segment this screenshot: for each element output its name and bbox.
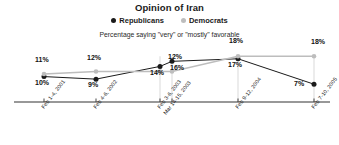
data-point-republicans-5 <box>312 82 317 87</box>
data-point-democrats-0 <box>42 72 47 77</box>
data-point-democrats-1 <box>94 69 99 74</box>
data-point-republicans-1 <box>94 77 99 82</box>
chart-plot-area <box>0 0 339 145</box>
data-point-republicans-2 <box>158 64 163 69</box>
data-point-democrats-4 <box>236 54 241 59</box>
data-point-democrats-3 <box>170 69 175 74</box>
data-point-democrats-5 <box>312 54 317 59</box>
data-point-democrats-2 <box>158 69 163 74</box>
data-point-republicans-3 <box>170 59 175 64</box>
chart-container: Opinion of Iran Republicans Democrats Pe… <box>0 0 339 145</box>
series-line-democrats <box>44 56 314 74</box>
